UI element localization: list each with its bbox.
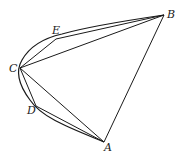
- parabola-diagram: [0, 0, 189, 159]
- parabolic-arc: [19, 15, 164, 142]
- label-a: A: [104, 142, 112, 153]
- label-c: C: [9, 63, 17, 74]
- label-e: E: [52, 25, 60, 36]
- label-d: D: [27, 105, 36, 116]
- label-b: B: [167, 9, 175, 20]
